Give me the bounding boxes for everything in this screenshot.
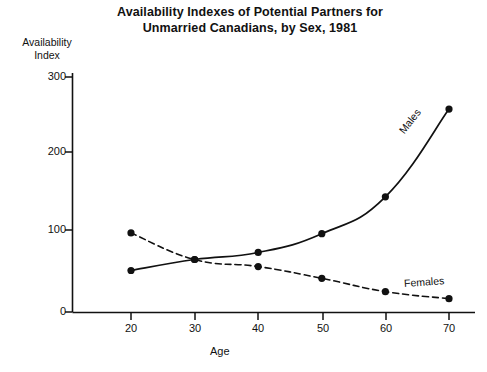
chart-plot-area [0, 0, 487, 372]
females-point-50 [318, 275, 325, 282]
chart-figure: Availability Indexes of Potential Partne… [0, 0, 487, 372]
males-point-70 [445, 106, 452, 113]
females-point-20 [127, 229, 134, 236]
males-point-60 [382, 193, 389, 200]
males-point-50 [318, 230, 325, 237]
males-curve [131, 109, 449, 270]
females-point-40 [255, 263, 262, 270]
females-point-30 [191, 256, 198, 263]
males-point-20 [127, 267, 134, 274]
females-curve [131, 233, 449, 299]
females-data-points [127, 229, 452, 302]
males-point-40 [255, 249, 262, 256]
females-point-60 [382, 288, 389, 295]
females-point-70 [445, 295, 452, 302]
series-line-females [127, 229, 452, 302]
